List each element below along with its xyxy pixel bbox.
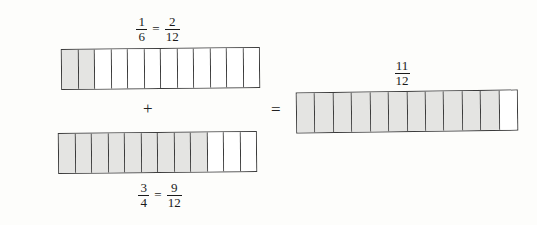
bar-cell-shaded — [370, 92, 389, 131]
numerator: 11 — [395, 59, 410, 73]
equals-sign-label-two: = — [154, 188, 161, 202]
bar-cell-shaded — [463, 91, 482, 130]
equals-sign-label-one: = — [152, 22, 159, 36]
bar-cell-shaded — [334, 93, 353, 132]
bar-cell-shaded — [191, 133, 208, 172]
bar-cell-shaded — [59, 134, 76, 173]
bar-cell-empty — [243, 48, 259, 87]
numerator: 1 — [138, 15, 147, 29]
bar-cell-shaded — [158, 133, 175, 172]
bar-cell-empty — [128, 49, 145, 88]
bar-cell-shaded — [407, 92, 426, 131]
addend-two-label: 3 4 = 9 12 — [110, 180, 210, 210]
bar-cell-shaded — [78, 50, 95, 89]
bar-cell-empty — [224, 132, 241, 171]
bar-cell-empty — [111, 49, 128, 88]
bar-cell-empty — [240, 132, 256, 171]
bar-cell-empty — [194, 49, 211, 88]
bar-cell-shaded — [92, 133, 109, 172]
bar-cell-shaded — [444, 91, 463, 130]
bar-cell-shaded — [297, 93, 316, 132]
addend-one-label: 1 6 = 2 12 — [108, 14, 208, 44]
bar-cell-empty — [95, 49, 112, 88]
bar-cell-empty — [499, 91, 517, 130]
figure-canvas: 1 6 = 2 12 + 3 4 = 9 12 = 11 — [0, 0, 537, 225]
plus-operator: + — [143, 100, 153, 117]
bar-cell-shaded — [141, 133, 158, 172]
bar-cell-shaded — [352, 92, 371, 131]
fraction-eleven-twelfths: 11 12 — [395, 59, 410, 88]
bar-cell-shaded — [174, 133, 191, 172]
bar-cell-shaded — [389, 92, 408, 131]
denominator: 12 — [395, 74, 410, 88]
numerator: 2 — [168, 15, 177, 29]
denominator: 6 — [138, 30, 147, 44]
bar-cell-shaded — [125, 133, 142, 172]
sum-bar — [296, 90, 519, 134]
denominator: 12 — [167, 196, 182, 210]
addend-one-bar — [61, 47, 260, 90]
fraction-nine-twelfths: 9 12 — [167, 181, 182, 210]
bar-cell-empty — [161, 49, 178, 88]
bar-cell-empty — [207, 132, 224, 171]
addend-two-bar — [58, 131, 257, 174]
fraction-one-sixth: 1 6 — [136, 15, 147, 44]
fraction-three-fourths: 3 4 — [138, 181, 149, 210]
equals-operator: = — [271, 101, 281, 118]
bar-cell-shaded — [426, 92, 445, 131]
bar-cell-shaded — [315, 93, 334, 132]
bar-cell-shaded — [108, 133, 125, 172]
bar-cell-shaded — [62, 50, 79, 89]
fraction-two-twelfths: 2 12 — [165, 15, 180, 44]
bar-cell-shaded — [75, 134, 92, 173]
denominator: 12 — [165, 30, 180, 44]
bar-cell-shaded — [481, 91, 500, 130]
bar-cell-empty — [227, 48, 244, 87]
denominator: 4 — [140, 196, 149, 210]
bar-cell-empty — [210, 48, 227, 87]
numerator: 9 — [170, 181, 179, 195]
numerator: 3 — [140, 181, 149, 195]
bar-cell-empty — [144, 49, 161, 88]
bar-cell-empty — [177, 49, 194, 88]
sum-label: 11 12 — [372, 58, 432, 88]
